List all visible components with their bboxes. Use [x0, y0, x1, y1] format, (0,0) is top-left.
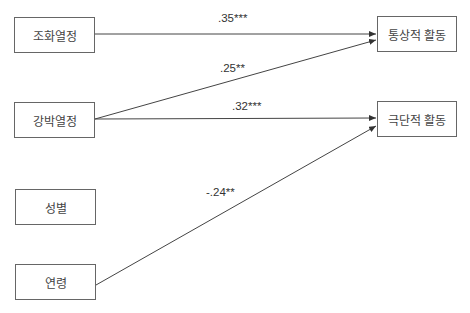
node-label: 통상적 활동	[388, 26, 447, 43]
node-harmonious-passion: 조화열정	[14, 17, 95, 53]
node-obsessive-passion: 강박열정	[14, 102, 95, 138]
node-gender: 성별	[15, 189, 96, 225]
edge-label-25: .25**	[220, 62, 245, 74]
node-age: 연령	[15, 264, 96, 300]
node-label: 조화열정	[33, 27, 77, 44]
edge-label-32: .32***	[232, 100, 261, 112]
node-radical-activity: 극단적 활동	[377, 101, 457, 137]
edge-label-35: .35***	[218, 12, 247, 24]
node-label: 연령	[45, 274, 67, 291]
edge-age-to-radical	[96, 126, 376, 285]
node-normative-activity: 통상적 활동	[377, 16, 457, 52]
node-label: 극단적 활동	[388, 111, 447, 128]
node-label: 성별	[45, 199, 67, 216]
edge-label-neg24: -.24**	[206, 186, 235, 198]
edge-obsessive-to-radical	[95, 118, 376, 119]
node-label: 강박열정	[33, 112, 77, 129]
